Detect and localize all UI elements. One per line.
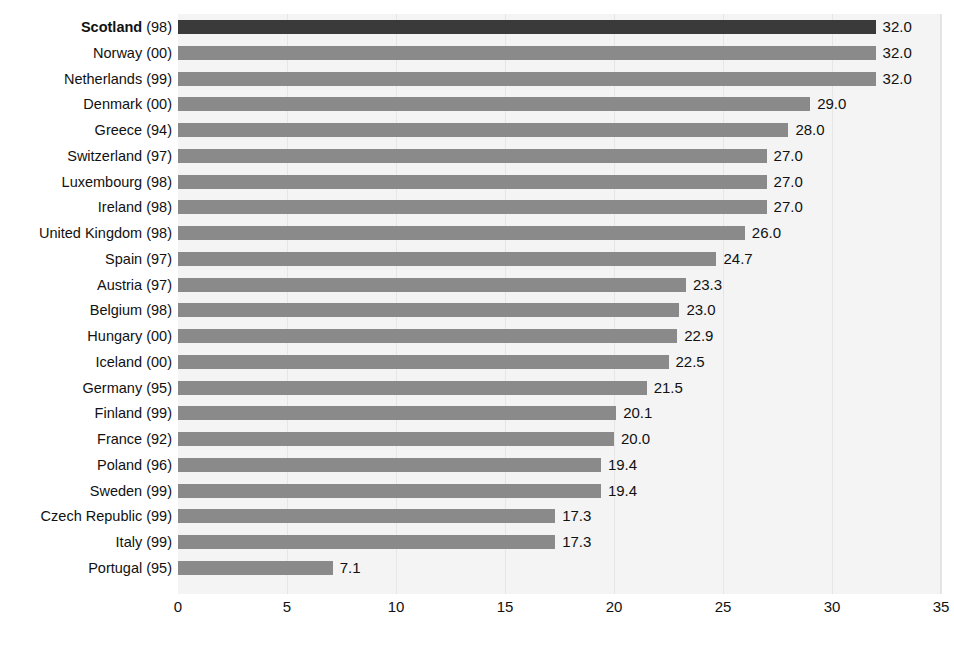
bar-value-label: 21.5 — [654, 375, 683, 401]
category-year: (99) — [142, 483, 172, 499]
bar-row: United Kingdom (98)26.0 — [0, 220, 954, 246]
category-label: Luxembourg (98) — [62, 169, 172, 195]
category-label: Austria (97) — [97, 272, 172, 298]
bar — [178, 149, 767, 163]
category-country: Portugal — [88, 560, 142, 576]
category-country: Denmark — [83, 96, 142, 112]
bar-row: Hungary (00)22.9 — [0, 323, 954, 349]
bar-value-label: 23.3 — [693, 272, 722, 298]
bar-row: Belgium (98)23.0 — [0, 297, 954, 323]
bar — [178, 484, 601, 498]
category-country: United Kingdom — [39, 225, 142, 241]
category-year: (00) — [142, 328, 172, 344]
category-label: Hungary (00) — [87, 323, 172, 349]
bar — [178, 46, 876, 60]
category-label: Portugal (95) — [88, 555, 172, 581]
category-country: Czech Republic — [41, 508, 143, 524]
x-axis-tick-20: 20 — [594, 598, 634, 615]
category-year: (00) — [142, 45, 172, 61]
category-year: (99) — [142, 405, 172, 421]
category-country: Scotland — [81, 19, 142, 35]
category-country: Iceland — [95, 354, 142, 370]
category-country: Finland — [95, 405, 143, 421]
bar-value-label: 20.0 — [621, 426, 650, 452]
category-country: Ireland — [98, 199, 142, 215]
bar-value-label: 32.0 — [883, 14, 912, 40]
category-country: Greece — [95, 122, 143, 138]
category-year: (99) — [142, 71, 172, 87]
category-label: Switzerland (97) — [67, 143, 172, 169]
bar — [178, 381, 647, 395]
bar-value-label: 24.7 — [723, 246, 752, 272]
bar-row: Scotland (98)32.0 — [0, 14, 954, 40]
bar-value-label: 22.9 — [684, 323, 713, 349]
category-country: Italy — [116, 534, 143, 550]
bar-row: Greece (94)28.0 — [0, 117, 954, 143]
bar-value-label: 27.0 — [774, 143, 803, 169]
bar — [178, 355, 669, 369]
bar-row: Finland (99)20.1 — [0, 400, 954, 426]
category-country: Germany — [83, 380, 143, 396]
category-year: (99) — [142, 508, 172, 524]
bar — [178, 175, 767, 189]
bar-value-label: 22.5 — [676, 349, 705, 375]
bar-value-label: 20.1 — [623, 400, 652, 426]
category-country: Austria — [97, 277, 142, 293]
bar-row: Ireland (98)27.0 — [0, 194, 954, 220]
bar-row: Iceland (00)22.5 — [0, 349, 954, 375]
category-year: (98) — [142, 302, 172, 318]
category-label: Scotland (98) — [81, 14, 172, 40]
bar-value-label: 19.4 — [608, 452, 637, 478]
category-label: Spain (97) — [105, 246, 172, 272]
bar — [178, 97, 810, 111]
category-year: (98) — [142, 19, 172, 35]
bar-row: Luxembourg (98)27.0 — [0, 169, 954, 195]
category-country: Spain — [105, 251, 142, 267]
category-country: Luxembourg — [62, 174, 143, 190]
bar — [178, 72, 876, 86]
bar-value-label: 17.3 — [562, 529, 591, 555]
bar-chart: Scotland (98)32.0Norway (00)32.0Netherla… — [0, 0, 954, 647]
category-year: (00) — [142, 354, 172, 370]
bar — [178, 20, 876, 34]
category-year: (98) — [142, 199, 172, 215]
category-label: Ireland (98) — [98, 194, 172, 220]
bar-row: Denmark (00)29.0 — [0, 91, 954, 117]
bar — [178, 278, 686, 292]
category-country: Poland — [97, 457, 142, 473]
bar-row: Norway (00)32.0 — [0, 40, 954, 66]
bar-value-label: 7.1 — [340, 555, 361, 581]
x-axis-tick-30: 30 — [812, 598, 852, 615]
bar — [178, 509, 555, 523]
x-axis-tick-15: 15 — [485, 598, 525, 615]
category-year: (98) — [142, 174, 172, 190]
category-year: (95) — [142, 380, 172, 396]
category-label: Netherlands (99) — [64, 66, 172, 92]
bar-row: Portugal (95)7.1 — [0, 555, 954, 581]
category-label: Poland (96) — [97, 452, 172, 478]
category-country: Sweden — [90, 483, 142, 499]
x-axis-tick-5: 5 — [267, 598, 307, 615]
bar — [178, 329, 677, 343]
category-label: Norway (00) — [93, 40, 172, 66]
bar-row: Spain (97)24.7 — [0, 246, 954, 272]
x-axis-tick-0: 0 — [158, 598, 198, 615]
bar-value-label: 29.0 — [817, 91, 846, 117]
bar-row: France (92)20.0 — [0, 426, 954, 452]
category-country: France — [97, 431, 142, 447]
category-year: (95) — [142, 560, 172, 576]
bar — [178, 458, 601, 472]
category-label: Italy (99) — [116, 529, 172, 555]
category-label: Finland (99) — [95, 400, 172, 426]
bar-row: Austria (97)23.3 — [0, 272, 954, 298]
x-axis-tick-35: 35 — [921, 598, 954, 615]
category-label: Denmark (00) — [83, 91, 172, 117]
category-label: Greece (94) — [95, 117, 172, 143]
category-year: (94) — [142, 122, 172, 138]
category-country: Belgium — [90, 302, 142, 318]
category-year: (97) — [142, 251, 172, 267]
bar — [178, 123, 788, 137]
bar-row: Czech Republic (99)17.3 — [0, 503, 954, 529]
category-label: Belgium (98) — [90, 297, 172, 323]
bar-rows: Scotland (98)32.0Norway (00)32.0Netherla… — [0, 14, 954, 594]
